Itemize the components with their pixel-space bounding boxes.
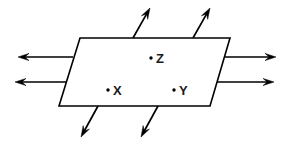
arrow-right-upper — [224, 53, 276, 60]
arrow-bottom-left-shaft — [84, 106, 98, 131]
point-y-dot-icon — [172, 88, 175, 91]
point-z-dot-icon — [149, 56, 152, 59]
arrow-top-left — [133, 8, 150, 38]
arrow-bottom-left-head-icon — [81, 126, 89, 137]
point-x-label: X — [113, 83, 122, 98]
arrow-bottom-right — [141, 106, 158, 137]
arrow-right-lower — [217, 78, 274, 85]
arrow-top-left-head-icon — [141, 8, 150, 19]
arrow-top-right-head-icon — [201, 8, 210, 19]
arrow-bottom-right-head-icon — [141, 126, 149, 137]
point-y-label: Y — [179, 83, 188, 98]
field-lines-through-plane-diagram: ZXY — [0, 0, 290, 152]
arrow-left-lower — [15, 78, 66, 85]
diagram-canvas: ZXY — [0, 0, 290, 152]
arrow-bottom-right-shaft — [144, 106, 158, 131]
point-x-dot-icon — [106, 88, 109, 91]
parallelogram-plane — [59, 38, 230, 106]
arrow-top-left-shaft — [133, 14, 147, 38]
point-z-label: Z — [156, 51, 164, 66]
arrow-top-right — [193, 8, 210, 38]
arrow-left-upper — [18, 53, 73, 60]
arrow-top-right-shaft — [193, 14, 207, 38]
arrow-bottom-left — [81, 106, 98, 137]
